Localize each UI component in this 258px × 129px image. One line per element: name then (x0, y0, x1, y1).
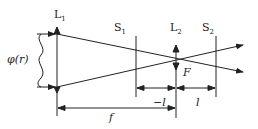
lens-2-arrow-bottom (173, 63, 179, 70)
lens-2-label: L2 (170, 22, 182, 38)
focus-label: F (183, 67, 191, 79)
f-label: f (109, 112, 113, 124)
minus-l-label: −l (153, 97, 166, 109)
phase-front (38, 34, 43, 87)
screen-2-label: S2 (202, 22, 214, 38)
lens-1-arrow-bottom (54, 87, 60, 93)
lens-1-label: L1 (54, 9, 66, 25)
diagram-canvas (0, 0, 258, 129)
screen-1-label: S1 (114, 22, 126, 38)
phase-label: φ(r) (7, 54, 29, 66)
optics-diagram: L1 S1 L2 S2 φ(r) F −l l f (0, 0, 258, 129)
lens-2-arrow-top (173, 45, 179, 52)
lens-1-arrow-top (54, 27, 60, 34)
l-label: l (196, 97, 200, 109)
